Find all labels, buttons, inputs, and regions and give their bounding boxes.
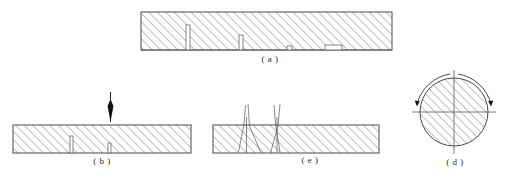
surface-flaw-1: [186, 25, 190, 51]
rotation-arc-right-head: [488, 101, 493, 107]
panel-b-body: [13, 125, 191, 153]
caption-panel-c: ( e ): [280, 155, 340, 165]
panel-b: [13, 92, 191, 153]
caption-panel-a: ( a ): [240, 54, 300, 64]
panel-b-surface-flaw-1: [70, 136, 73, 153]
downward-load-arrow: [108, 92, 114, 122]
panel-c-body: [213, 125, 379, 153]
caption-panel-d: ( d ): [425, 157, 485, 167]
figure-root: ( a ) ( b ) ( e ) ( d ): [0, 0, 509, 181]
panel-b-surface-flaw-2: [108, 143, 111, 153]
surface-flaw-2: [239, 35, 243, 51]
panel-d: [412, 70, 496, 154]
caption-panel-b: ( b ): [72, 156, 132, 166]
panel-a-body: [141, 12, 392, 50]
rotation-arc-left-head: [415, 101, 420, 107]
panel-c: [213, 104, 379, 153]
figure-canvas: [0, 0, 509, 181]
arrowhead: [108, 99, 114, 122]
panel-a: [141, 12, 392, 51]
